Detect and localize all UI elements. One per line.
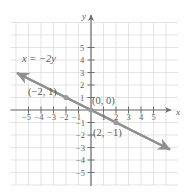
x-axis-label: x <box>176 108 180 117</box>
y-tick-label-neg5: −5 <box>76 169 85 178</box>
y-tick-label-neg1: −1 <box>76 119 85 128</box>
point-label-origin: (0, 0) <box>92 96 115 107</box>
x-tick-label-1: 1 <box>102 113 106 122</box>
y-tick-label-5: 5 <box>80 44 84 53</box>
x-tick-label-neg3: −3 <box>47 113 56 122</box>
y-tick-label-3: 3 <box>80 69 84 78</box>
y-tick-label-4: 4 <box>80 56 84 65</box>
point-label-neg2-1: (−2, 1) <box>28 87 57 98</box>
y-tick-label-neg3: −3 <box>76 144 85 153</box>
x-tick-label-neg5: −5 <box>22 113 31 122</box>
point-marker-origin <box>88 107 93 112</box>
x-tick-label-2: 2 <box>114 113 118 122</box>
x-tick-label-4: 4 <box>139 113 143 122</box>
point-label-2-neg1: (2, −1) <box>93 128 122 139</box>
x-tick-label-neg4: −4 <box>35 113 44 122</box>
y-tick-label-1: 1 <box>80 94 84 103</box>
y-axis-label: y <box>82 12 86 21</box>
equation-label: x = −2y <box>22 54 56 65</box>
x-tick-label-neg2: −2 <box>60 113 69 122</box>
y-tick-label-2: 2 <box>80 81 84 90</box>
y-tick-label-neg4: −4 <box>76 156 85 165</box>
point-marker-neg2-1 <box>63 95 68 100</box>
coordinate-plane-figure: y x −5 −4 −3 −2 −1 1 2 3 4 5 5 4 3 2 1 −… <box>0 0 188 196</box>
x-tick-label-3: 3 <box>127 113 131 122</box>
y-tick-label-neg2: −2 <box>76 131 85 140</box>
x-tick-label-5: 5 <box>152 113 156 122</box>
